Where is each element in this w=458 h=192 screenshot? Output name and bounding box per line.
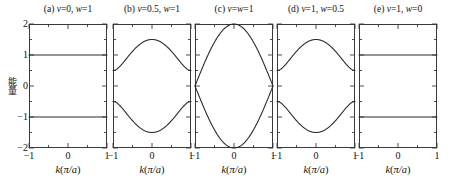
x-tick-label: −1 <box>108 150 119 161</box>
x-tick-label: −1 <box>190 150 201 161</box>
x-axis-tick-labels-e: −101 <box>359 150 437 162</box>
x-axis-label-b: k(π/a) <box>113 164 191 176</box>
x-axis-tick-labels-d: −101 <box>277 150 355 162</box>
x-axis-label-a: k(π/a) <box>29 164 107 176</box>
x-axis-label-c: k(π/a) <box>195 164 273 176</box>
panel-title-d: (d) v=1, w=0.5 <box>288 4 344 15</box>
band-curve <box>195 86 273 148</box>
panel-title-a: (a) v=0, w=1 <box>44 4 92 15</box>
x-tick-label: −1 <box>24 150 35 161</box>
band-curve <box>113 102 191 133</box>
band-curve <box>195 24 273 86</box>
y-tick-label: 2 <box>6 19 28 29</box>
panel-plot <box>29 24 107 148</box>
panel-c <box>195 24 273 148</box>
panel-title-c: (c) v=w=1 <box>215 4 254 15</box>
panel-title-b: (b) v=0.5, w=1 <box>124 4 180 15</box>
panel-plot <box>195 24 273 148</box>
panel-plot <box>277 24 355 148</box>
band-structure-figure: 能量 210−1−2 (a) v=0, w=1−101k(π/a)(b) v=0… <box>0 0 458 192</box>
x-tick-label: 1 <box>435 150 440 161</box>
y-tick-label: 0 <box>6 81 28 91</box>
y-tick-label: −1 <box>6 112 28 122</box>
band-curve <box>113 40 191 71</box>
y-tick-label: 1 <box>6 50 28 60</box>
panel-e <box>359 24 437 148</box>
x-axis-label-d: k(π/a) <box>277 164 355 176</box>
x-tick-label: 0 <box>396 150 401 161</box>
x-axis-tick-labels-b: −101 <box>113 150 191 162</box>
x-axis-tick-labels-c: −101 <box>195 150 273 162</box>
x-tick-label: −1 <box>272 150 283 161</box>
x-tick-label: 0 <box>314 150 319 161</box>
x-tick-label: 0 <box>150 150 155 161</box>
x-axis-tick-labels-a: −101 <box>29 150 107 162</box>
band-curve <box>277 40 355 71</box>
panel-plot <box>113 24 191 148</box>
y-axis-tick-labels: 210−1−2 <box>4 0 28 192</box>
panel-title-e: (e) v=1, w=0 <box>374 4 422 15</box>
panel-a <box>29 24 107 148</box>
panel-d <box>277 24 355 148</box>
panel-plot <box>359 24 437 148</box>
x-tick-label: 0 <box>232 150 237 161</box>
x-tick-label: 0 <box>66 150 71 161</box>
x-tick-label: −1 <box>354 150 365 161</box>
x-axis-label-e: k(π/a) <box>359 164 437 176</box>
panel-b <box>113 24 191 148</box>
band-curve <box>277 102 355 133</box>
